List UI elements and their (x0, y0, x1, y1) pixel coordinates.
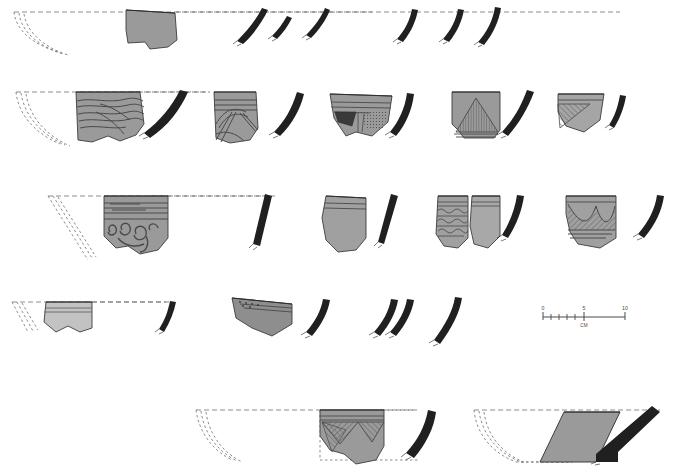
scale-tick-10: 10 (622, 305, 628, 311)
sherd-2-4 (452, 92, 500, 138)
sherd-3-4 (470, 196, 500, 248)
sherd-3-3 (436, 196, 468, 248)
pottery-illustration-plate: 0 5 10 CM (0, 0, 682, 474)
scale-tick-5: 5 (583, 305, 586, 311)
sherd-3-1 (104, 196, 168, 254)
sherd-2-2 (214, 92, 258, 143)
scale-unit-label: CM (580, 323, 588, 328)
scale-tick-0: 0 (542, 305, 545, 311)
sherd-2-1 (76, 92, 144, 142)
plate-drawing: 0 5 10 CM (0, 0, 682, 474)
